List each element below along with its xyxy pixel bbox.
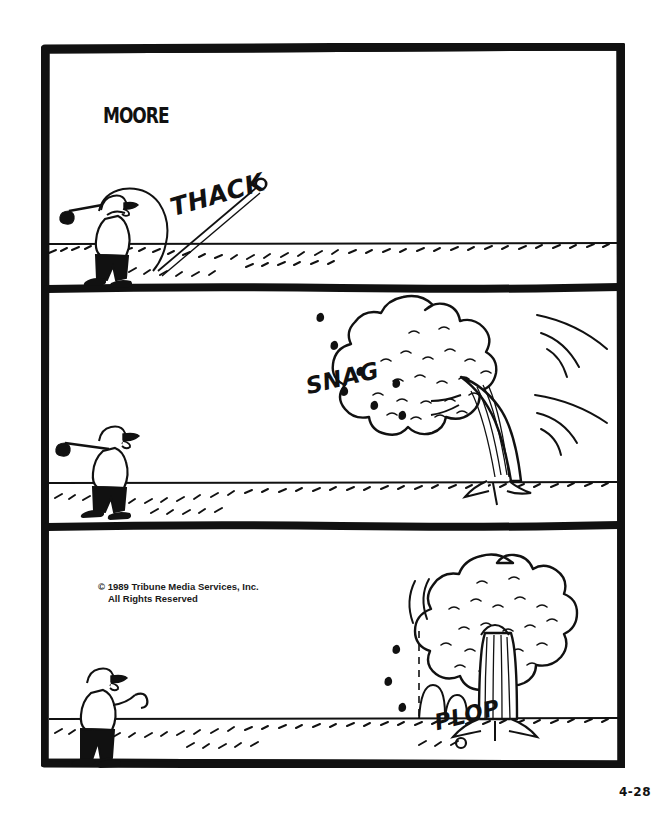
panel-3-falling-leaves	[384, 645, 406, 712]
copyright-line-2: All Rights Reserved	[98, 593, 259, 605]
panel-divider-1	[47, 287, 619, 289]
panel-1-artwork	[49, 179, 619, 288]
panel-1-golfer	[60, 189, 168, 288]
panel-2-golfer	[56, 427, 139, 520]
copyright-line-1: © 1989 Tribune Media Services, Inc.	[98, 581, 259, 592]
panel-2-artwork	[49, 296, 619, 520]
panel-1-rough-grass	[49, 244, 609, 276]
comic-strip: MOORE THACK SNAG PLOP © 1989 Tribune Med…	[41, 43, 625, 768]
panel-2-tree	[333, 296, 531, 505]
panel-1-horizon	[49, 243, 619, 244]
artist-signature: MOORE	[103, 103, 169, 128]
panel-2-motion-lines	[535, 315, 607, 455]
panel-2-horizon	[49, 482, 619, 483]
panel-2-rough-grass	[55, 483, 608, 514]
comic-artwork	[41, 43, 625, 768]
panel-divider-2	[47, 525, 619, 527]
panel-3-horizon	[49, 718, 619, 719]
comic-page: MOORE THACK SNAG PLOP © 1989 Tribune Med…	[0, 0, 669, 818]
copyright-notice: © 1989 Tribune Media Services, Inc.All R…	[98, 581, 259, 605]
date-stamp: 4-28	[619, 785, 651, 799]
